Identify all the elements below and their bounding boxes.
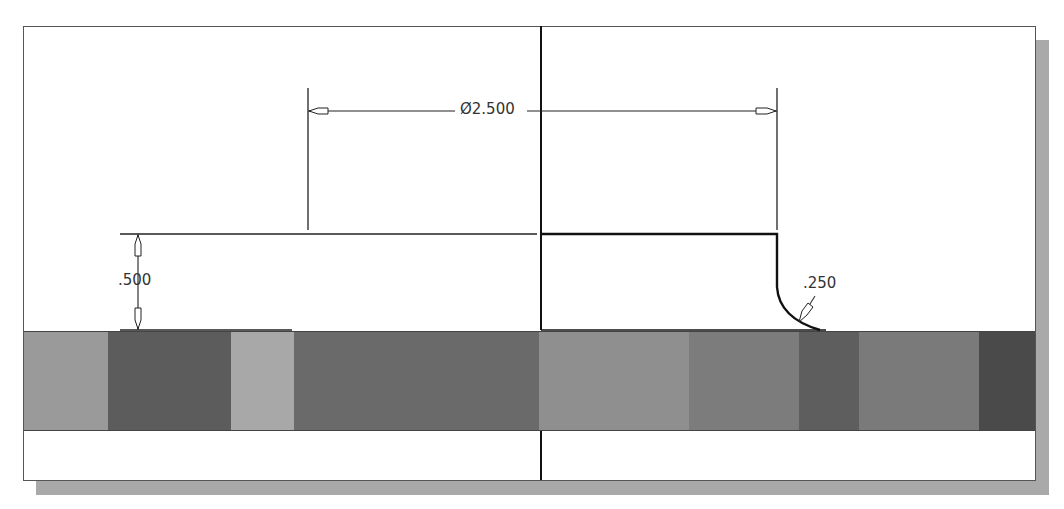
diameter-dimension[interactable] (308, 88, 777, 230)
arrow-up-icon (135, 235, 141, 256)
arrow-left-icon (309, 108, 328, 114)
arrow-down-icon (135, 308, 141, 329)
leader-arrow-icon (799, 303, 813, 322)
height-label[interactable]: .500 (118, 273, 151, 288)
sketch-canvas (0, 0, 1064, 509)
arrow-right-icon (756, 108, 776, 114)
fillet-dimension[interactable] (799, 296, 815, 322)
diameter-label[interactable]: Ø2.500 (459, 102, 516, 117)
fillet-radius-label[interactable]: .250 (803, 276, 836, 291)
profile-sketch[interactable] (541, 234, 820, 330)
